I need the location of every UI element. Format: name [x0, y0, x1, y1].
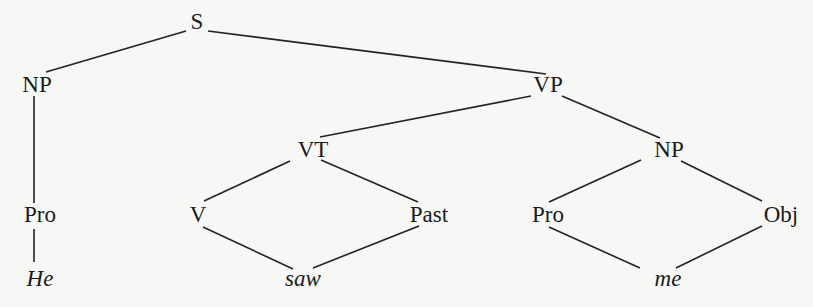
node-vp: VP: [533, 73, 562, 97]
node-pro1: Pro: [24, 203, 56, 227]
edge-pro2-me: [549, 227, 640, 268]
edge-vp-vt: [320, 96, 531, 137]
edge-s-np1: [46, 31, 186, 72]
leaf-word-me: me: [655, 267, 682, 291]
leaf-word-saw: saw: [285, 267, 321, 291]
edge-vp-np2: [562, 96, 660, 138]
leaf-word-he: He: [27, 267, 54, 291]
edge-np2-pro2: [549, 160, 641, 202]
node-past: Past: [410, 203, 448, 227]
node-s: S: [191, 10, 204, 34]
node-pro2: Pro: [532, 203, 564, 227]
edge-s-vp: [208, 31, 546, 74]
edge-past-saw: [313, 226, 419, 268]
edge-np2-obj: [681, 161, 762, 201]
node-vt: VT: [298, 138, 329, 162]
node-obj: Obj: [764, 203, 799, 227]
node-v: V: [190, 203, 207, 227]
tree-edges: [0, 0, 813, 307]
edge-vt-past: [321, 160, 418, 202]
edge-obj-me: [676, 226, 762, 268]
edge-vt-v: [204, 161, 290, 201]
node-np2: NP: [654, 138, 683, 162]
node-np1: NP: [22, 73, 51, 97]
edge-v-saw: [203, 227, 293, 269]
